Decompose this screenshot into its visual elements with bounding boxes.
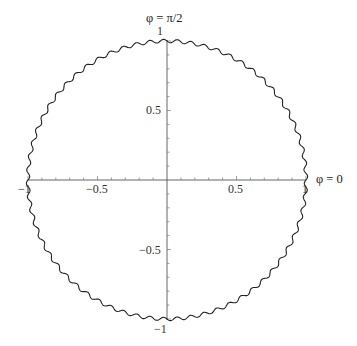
y-tick-label-1: 1 xyxy=(157,24,163,38)
phi-zero-label: φ = 0 xyxy=(316,172,343,186)
x-tick-label-neg05: −0.5 xyxy=(86,182,108,196)
phi-pi-over-2-label: φ = π/2 xyxy=(146,11,183,25)
polar-plot: −1 −0.5 0.5 1 1 0.5 −0.5 −1 φ = π/2 φ = … xyxy=(0,0,357,346)
x-tick-label-1: 1 xyxy=(302,182,308,196)
y-tick-label-neg1: −1 xyxy=(154,322,167,336)
y-tick-label-05: 0.5 xyxy=(146,103,161,117)
y-tick-label-neg05: −0.5 xyxy=(139,243,161,257)
x-tick-label-05: 0.5 xyxy=(228,182,243,196)
x-tick-label-neg1: −1 xyxy=(18,182,31,196)
